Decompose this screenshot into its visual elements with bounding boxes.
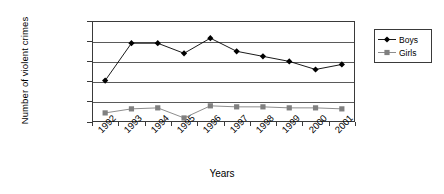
diamond-marker-icon bbox=[286, 58, 292, 64]
square-marker-icon bbox=[129, 106, 134, 111]
diamond-marker-icon bbox=[155, 40, 161, 46]
square-marker-icon bbox=[155, 105, 160, 110]
series-girls bbox=[103, 103, 345, 120]
diamond-marker-icon bbox=[234, 48, 240, 54]
legend-label: Girls bbox=[399, 48, 416, 58]
chart-legend: BoysGirls bbox=[374, 29, 432, 63]
diamond-marker-icon bbox=[181, 50, 187, 56]
diamond-marker-icon bbox=[384, 36, 390, 42]
series-line bbox=[105, 106, 342, 118]
square-marker-icon bbox=[234, 104, 239, 109]
legend-item-boys[interactable]: Boys bbox=[377, 33, 428, 46]
square-marker-icon bbox=[287, 105, 292, 110]
diamond-marker-icon bbox=[377, 34, 397, 45]
legend-item-girls[interactable]: Girls bbox=[377, 46, 428, 59]
series-boys bbox=[102, 35, 345, 84]
diamond-marker-icon bbox=[128, 40, 134, 46]
line-chart: Number of violent crimes 100000800006000… bbox=[0, 0, 444, 194]
diamond-marker-icon bbox=[207, 35, 213, 41]
diamond-marker-icon bbox=[102, 77, 108, 83]
diamond-marker-icon bbox=[260, 53, 266, 59]
series-line bbox=[105, 38, 342, 80]
legend-label: Boys bbox=[399, 35, 418, 45]
square-marker-icon bbox=[377, 47, 397, 58]
square-marker-icon bbox=[384, 50, 389, 55]
square-marker-icon bbox=[181, 115, 186, 120]
square-marker-icon bbox=[313, 105, 318, 110]
square-marker-icon bbox=[208, 103, 213, 108]
diamond-marker-icon bbox=[312, 66, 318, 72]
diamond-marker-icon bbox=[339, 61, 345, 67]
square-marker-icon bbox=[260, 104, 265, 109]
square-marker-icon bbox=[339, 106, 344, 111]
square-marker-icon bbox=[103, 110, 108, 115]
